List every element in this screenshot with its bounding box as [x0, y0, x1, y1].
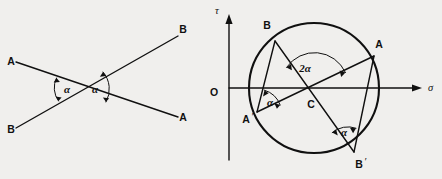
label-alpha-left: α: [64, 83, 71, 95]
label-alpha-left-circle: α: [267, 96, 274, 108]
point-label-B: B: [263, 19, 271, 31]
label-B-upper-right: B: [179, 23, 187, 35]
point-label-B-prime: B: [355, 158, 363, 170]
label-two-alpha: 2α: [298, 62, 312, 74]
label-alpha-right: α: [92, 83, 99, 95]
mohr-circle-figure: A A B B α α σ τ O 2α: [0, 0, 442, 179]
point-label-A: A: [375, 38, 383, 50]
figure-container: A A B B α α σ τ O 2α: [0, 0, 442, 179]
label-A-lower-right: A: [179, 111, 187, 123]
label-alpha-right-circle: α: [341, 126, 348, 138]
sigma-axis-label: σ: [428, 82, 434, 93]
origin-label-O: O: [210, 86, 218, 98]
point-label-A-prime: A: [242, 113, 250, 125]
label-A-upper-left: A: [7, 55, 15, 67]
centre-label-C: C: [307, 98, 315, 110]
label-B-lower-left: B: [7, 123, 15, 135]
